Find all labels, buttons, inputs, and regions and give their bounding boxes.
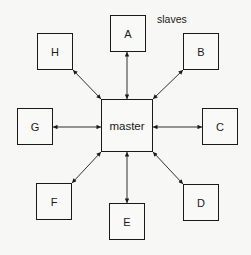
- master-node: master: [101, 99, 153, 152]
- arrow-master-b: [153, 70, 183, 99]
- slave-node-h: H: [37, 33, 73, 70]
- slave-node-c: C: [202, 108, 238, 145]
- slave-node-f: F: [36, 183, 72, 220]
- arrow-master-f: [72, 152, 101, 183]
- slave-node-d: D: [183, 184, 219, 221]
- slave-node-g: G: [17, 108, 53, 145]
- master-slave-diagram: slaves master A B C D E F G H: [0, 0, 251, 255]
- slave-node-b: B: [183, 33, 219, 70]
- arrow-master-h: [73, 70, 101, 99]
- slave-node-a: A: [110, 15, 146, 52]
- arrow-master-d: [153, 152, 183, 184]
- slave-node-e: E: [109, 203, 145, 240]
- slaves-caption: slaves: [157, 13, 187, 25]
